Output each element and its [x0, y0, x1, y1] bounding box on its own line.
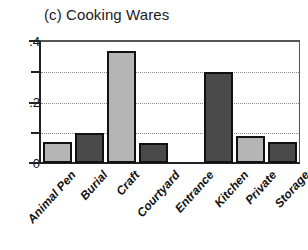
bar-animal-pen: [43, 142, 72, 163]
bar-storage: [268, 142, 297, 163]
x-axis-label-animal-pen: Animal Pen: [24, 168, 78, 226]
x-axis-labels: Animal Pen Burial Craft Courtyard Entran…: [0, 166, 308, 250]
chart-title: (c) Cooking Wares: [44, 6, 169, 23]
x-axis-label-storage: Storage: [272, 168, 308, 211]
cooking-wares-chart: (c) Cooking Wares .4 .2 0 Animal Pen Bur…: [0, 0, 308, 250]
x-axis-label-kitchen: Kitchen: [212, 168, 252, 210]
bar-private: [236, 136, 265, 163]
bar-kitchen: [204, 72, 233, 163]
bar-courtyard: [139, 143, 168, 163]
x-axis-label-burial: Burial: [77, 168, 110, 203]
y-tick-0.1: [31, 132, 39, 134]
bar-series: [41, 42, 299, 163]
y-tick-0: [29, 162, 39, 164]
x-axis-label-craft: Craft: [113, 168, 142, 198]
bar-craft: [107, 51, 136, 163]
y-tick-0.4: [29, 40, 39, 42]
y-tick-0.3: [31, 71, 39, 73]
bar-burial: [75, 133, 104, 163]
y-tick-0.2: [29, 102, 39, 104]
